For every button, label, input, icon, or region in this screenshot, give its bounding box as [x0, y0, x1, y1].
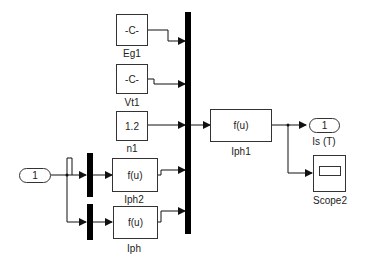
block-text: -C- — [125, 74, 139, 85]
block-text: 1.2 — [125, 121, 139, 132]
block-label-eg1: Eg1 — [123, 48, 141, 59]
constant-block-eg1[interactable]: -C- — [116, 14, 148, 46]
fcn-block-iph1[interactable]: f(u) — [210, 109, 272, 142]
scope-screen-icon — [319, 166, 341, 176]
block-label-iph1: Iph1 — [231, 146, 250, 157]
port-number: 1 — [322, 120, 328, 131]
signal-lines — [0, 0, 366, 265]
fcn-block-iph[interactable]: f(u) — [113, 206, 158, 239]
block-label-scope2: Scope2 — [313, 195, 347, 206]
block-label-vt1: Vt1 — [124, 97, 139, 108]
fcn-block-iph2[interactable]: f(u) — [112, 158, 158, 192]
outport-block[interactable]: 1 — [309, 118, 340, 133]
constant-block-n1[interactable]: 1.2 — [116, 111, 148, 141]
block-label-iph2: Iph2 — [124, 194, 143, 205]
mux-bar-main[interactable] — [185, 12, 191, 234]
block-text: f(u) — [128, 217, 143, 228]
block-label-n1: n1 — [126, 143, 137, 154]
block-text: f(u) — [234, 120, 249, 131]
simulink-canvas: -C- Eg1 -C- Vt1 1.2 n1 f(u) Iph2 f(u) Ip… — [0, 0, 366, 265]
mux-bar-iph[interactable] — [87, 204, 93, 240]
constant-block-vt1[interactable]: -C- — [116, 64, 148, 94]
inport-block[interactable]: 1 — [19, 168, 51, 183]
block-text: f(u) — [128, 170, 143, 181]
block-label-iph: Iph — [127, 243, 141, 254]
scope-block-scope2[interactable] — [313, 155, 346, 192]
port-number: 1 — [32, 170, 38, 181]
mux-bar-iph2[interactable] — [87, 153, 93, 197]
outport-label: Is (T) — [312, 136, 335, 147]
block-text: -C- — [125, 25, 139, 36]
